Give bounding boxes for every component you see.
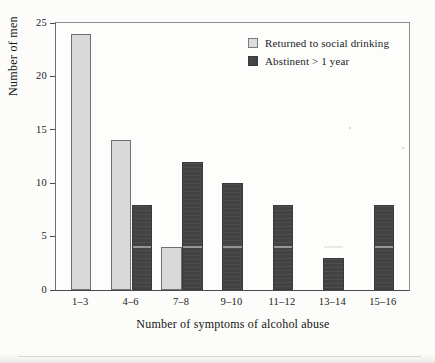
bar-abstinent-over-1-year bbox=[182, 162, 203, 290]
y-axis-tick-label: 0 bbox=[42, 284, 50, 295]
y-axis-tick-label: 25 bbox=[36, 17, 50, 28]
x-axis-tick-label: 11–12 bbox=[268, 296, 295, 307]
scan-speck bbox=[402, 147, 404, 149]
y-axis-title: Number of men bbox=[6, 0, 21, 96]
page-rule bbox=[18, 356, 421, 357]
page-edge bbox=[0, 353, 435, 363]
x-axis-tick-label: 1–3 bbox=[72, 296, 88, 307]
y-axis-tick-label: 10 bbox=[36, 177, 50, 188]
bar-abstinent-over-1-year bbox=[222, 183, 243, 290]
y-axis-tick-label: 15 bbox=[36, 124, 50, 135]
legend-swatch-icon-light bbox=[248, 38, 258, 48]
figure: Number of men 0510152025 1–34–67–89–1011… bbox=[0, 0, 435, 363]
scan-speck bbox=[349, 127, 351, 129]
x-axis-title: Number of symptoms of alcohol abuse bbox=[55, 317, 411, 332]
bar-returned-to-social-drinking bbox=[71, 34, 92, 290]
bar-abstinent-over-1-year bbox=[323, 258, 344, 290]
x-axis-tick-label: 15–16 bbox=[369, 296, 396, 307]
y-axis-tick-label: 5 bbox=[42, 231, 50, 242]
legend-label: Returned to social drinking bbox=[265, 37, 389, 49]
y-axis: Number of men 0510152025 bbox=[0, 0, 55, 295]
bar-returned-to-social-drinking bbox=[111, 140, 132, 290]
x-axis-tick-label: 4–6 bbox=[122, 296, 138, 307]
legend-swatch-icon-dark bbox=[248, 56, 258, 66]
bar-returned-to-social-drinking bbox=[161, 247, 182, 290]
x-axis: 1–34–67–89–1011–1213–1415–16 bbox=[55, 292, 411, 316]
y-axis-tick-label: 20 bbox=[36, 71, 50, 82]
legend-item-abstinent-over-1-year: Abstinent > 1 year bbox=[248, 55, 389, 67]
x-axis-tick-label: 9–10 bbox=[221, 296, 243, 307]
legend-item-returned-to-social-drinking: Returned to social drinking bbox=[248, 37, 389, 49]
bar-abstinent-over-1-year bbox=[374, 205, 395, 290]
bar-abstinent-over-1-year bbox=[132, 205, 153, 290]
legend: Returned to social drinking Abstinent > … bbox=[248, 37, 389, 67]
legend-label: Abstinent > 1 year bbox=[265, 55, 349, 67]
bar-abstinent-over-1-year bbox=[273, 205, 294, 290]
x-axis-tick-label: 13–14 bbox=[319, 296, 346, 307]
x-axis-tick-label: 7–8 bbox=[173, 296, 189, 307]
